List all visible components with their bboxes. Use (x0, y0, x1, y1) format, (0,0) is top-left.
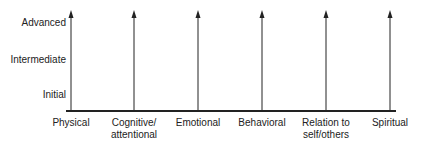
arrowhead-icon (388, 10, 393, 18)
dimension-arrows (69, 10, 393, 111)
y-axis-label-initial: Initial (0, 89, 66, 101)
y-axis-label-advanced: Advanced (0, 17, 66, 29)
arrowhead-icon (324, 10, 329, 18)
arrowhead-icon (132, 10, 137, 18)
arrowhead-icon (196, 10, 201, 18)
arrowhead-icon (260, 10, 265, 18)
arrowhead-icon (69, 10, 74, 18)
x-label-spiritual: Spiritual (350, 117, 422, 129)
y-axis-label-intermediate: Intermediate (0, 54, 66, 66)
